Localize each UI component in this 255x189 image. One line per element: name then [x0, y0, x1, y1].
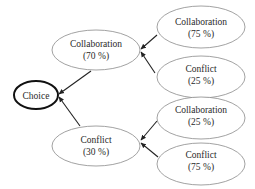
- node-conflict-25-label: Conflict: [185, 64, 216, 74]
- edge-collab75-to-collab70: [141, 35, 157, 49]
- edge-collab70-to-choice: [59, 71, 91, 94]
- node-collaboration-70-label: Collaboration: [70, 39, 122, 49]
- edge-conflict30-to-choice: [59, 97, 80, 126]
- node-collaboration-25-label: Collaboration: [175, 105, 227, 115]
- node-collaboration-75-percent: (75 %): [188, 29, 214, 40]
- node-collaboration-70-shape: [52, 30, 140, 70]
- edge-conflict75-to-conflict30: [141, 143, 158, 157]
- node-choice: Choice: [14, 81, 58, 109]
- decision-tree-diagram: Choice Collaboration (70 %) Conflict (30…: [0, 0, 255, 189]
- node-collaboration-70-percent: (70 %): [83, 51, 109, 62]
- edge-conflict25-to-collab70: [141, 52, 155, 73]
- node-conflict-30-percent: (30 %): [83, 147, 109, 158]
- node-conflict-75-percent: (75 %): [188, 162, 214, 173]
- node-conflict-25: Conflict (25 %): [157, 56, 245, 98]
- node-collaboration-70: Collaboration (70 %): [52, 30, 140, 70]
- node-collaboration-25: Collaboration (25 %): [157, 97, 245, 139]
- node-conflict-25-percent: (25 %): [188, 76, 214, 87]
- node-conflict-30: Conflict (30 %): [52, 126, 140, 166]
- edge-collab25-to-conflict30: [141, 121, 157, 140]
- node-conflict-30-shape: [52, 126, 140, 166]
- node-conflict-30-label: Conflict: [80, 135, 111, 145]
- node-collaboration-25-percent: (25 %): [188, 117, 214, 128]
- node-conflict-75: Conflict (75 %): [157, 143, 245, 185]
- node-collaboration-75-label: Collaboration: [175, 17, 227, 27]
- node-choice-label: Choice: [23, 91, 50, 101]
- node-collaboration-75: Collaboration (75 %): [157, 6, 245, 48]
- node-collaboration-75-shape: [157, 6, 245, 48]
- node-conflict-75-label: Conflict: [185, 150, 216, 160]
